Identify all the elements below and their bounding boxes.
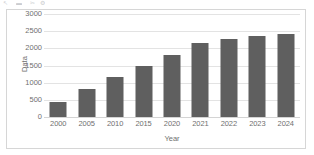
- bar[interactable]: [249, 36, 266, 117]
- bar-chart: Data 050010001500200025003000 Year 20002…: [6, 9, 306, 149]
- x-axis-tick-label: 2023: [243, 120, 271, 128]
- y-axis-tick-label: 1000: [8, 79, 42, 87]
- y-axis-tick-label: 0: [8, 113, 42, 121]
- gridline: [44, 117, 300, 118]
- x-axis-tick-label: 2020: [158, 120, 186, 128]
- bar-slot: [101, 14, 129, 117]
- y-axis-tick-label: 3000: [8, 10, 42, 18]
- bar[interactable]: [107, 77, 124, 117]
- x-axis-tick-label: 2022: [215, 120, 243, 128]
- x-axis-tick-label: 2010: [101, 120, 129, 128]
- pointer-icon[interactable]: ↖: [3, 0, 8, 6]
- bar-slot: [272, 14, 300, 117]
- toolbar-strip: ↖ ▬ ✂ ⚙: [0, 0, 314, 7]
- settings-icon[interactable]: ⚙: [40, 0, 45, 6]
- bar[interactable]: [135, 66, 152, 117]
- y-axis-tick-label: 500: [8, 96, 42, 104]
- bar[interactable]: [50, 102, 67, 117]
- x-axis-tick-label: 2024: [272, 120, 300, 128]
- bar[interactable]: [163, 55, 180, 117]
- bar-slot: [186, 14, 214, 117]
- bar[interactable]: [78, 89, 95, 117]
- bar[interactable]: [192, 43, 209, 117]
- y-axis-tick-label: 1500: [8, 62, 42, 70]
- bar-slot: [243, 14, 271, 117]
- y-axis-tick-label: 2000: [8, 44, 42, 52]
- crop-icon[interactable]: ✂: [30, 0, 35, 6]
- bar[interactable]: [277, 34, 294, 117]
- bar-slot: [129, 14, 157, 117]
- plot-area: 050010001500200025003000: [44, 14, 300, 117]
- x-axis-tick-label: 2021: [186, 120, 214, 128]
- x-axis-tick-label: 2015: [129, 120, 157, 128]
- bar-slot: [158, 14, 186, 117]
- bar[interactable]: [220, 39, 237, 117]
- x-axis-tick-label: 2000: [44, 120, 72, 128]
- image-icon[interactable]: ▬: [16, 0, 22, 6]
- x-axis-tick-label: 2005: [72, 120, 100, 128]
- bar-slot: [72, 14, 100, 117]
- bar-slot: [215, 14, 243, 117]
- y-axis-tick-label: 2500: [8, 27, 42, 35]
- bar-slot: [44, 14, 72, 117]
- x-axis-title: Year: [44, 134, 300, 143]
